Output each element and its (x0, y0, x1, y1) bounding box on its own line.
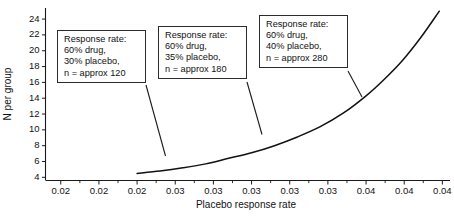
y-tick-label: 4 (34, 171, 39, 182)
callout-1-line-1: Response rate: (64, 34, 140, 45)
callout-1-line-2: 60% drug, (64, 45, 140, 56)
y-tick-label: 12 (29, 108, 40, 119)
y-axis-tick-labels: 4681012141618202224 (29, 13, 40, 182)
y-tick-label: 16 (29, 76, 40, 87)
y-tick-label: 10 (29, 123, 40, 134)
y-tick-label: 24 (29, 13, 40, 24)
callout-3-line-2: 60% drug, (266, 30, 342, 41)
callout-1-line-3: 30% placebo, (64, 56, 140, 67)
callout-3-line-4: n = approx 280 (266, 53, 342, 64)
x-axis-title: Placebo response rate (196, 199, 297, 210)
callout-1-line-4: n = approx 120 (64, 68, 140, 79)
x-tick-label: 0.04 (395, 185, 414, 196)
callout-2-line-3: 35% placebo, (165, 52, 241, 63)
y-tick-label: 8 (34, 139, 39, 150)
callout-2-line-4: n = approx 180 (165, 64, 241, 75)
callout-box-3: Response rate: 60% drug, 40% placebo, n … (259, 15, 348, 68)
x-axis: 0.020.020.020.030.030.030.030.030.040.04… (46, 181, 452, 197)
callout-2-line-1: Response rate: (165, 30, 241, 41)
x-tick-label: 0.03 (280, 185, 299, 196)
x-tick-label: 0.03 (319, 185, 338, 196)
callout-3-line-3: 40% placebo, (266, 41, 342, 52)
y-tick-label: 20 (29, 44, 40, 55)
y-tick-label: 6 (34, 155, 39, 166)
y-tick-label: 22 (29, 28, 40, 39)
x-tick-label: 0.02 (128, 185, 147, 196)
x-tick-label: 0.02 (52, 185, 71, 196)
callout-3-line-1: Response rate: (266, 19, 342, 30)
y-tick-label: 18 (29, 60, 40, 71)
callout-box-1: Response rate: 60% drug, 30% placebo, n … (57, 30, 146, 83)
callout-2-line-2: 60% drug, (165, 41, 241, 52)
x-tick-label: 0.02 (90, 185, 109, 196)
chart-figure: 4681012141618202224 0.020.020.020.030.03… (0, 0, 454, 218)
y-axis: 4681012141618202224 (29, 8, 46, 182)
y-tick-label: 14 (29, 92, 40, 103)
x-tick-label: 0.04 (433, 185, 452, 196)
callout-2-leader-line (247, 82, 262, 135)
y-axis-title: N per group (2, 67, 13, 120)
x-tick-label: 0.03 (242, 185, 261, 196)
callout-1-leader-line (146, 85, 166, 156)
callout-3-leader-line (348, 71, 362, 97)
callout-box-2: Response rate: 60% drug, 35% placebo, n … (158, 26, 247, 79)
x-axis-tick-labels: 0.020.020.020.030.030.030.030.030.040.04… (52, 185, 452, 196)
x-axis-ticks (61, 181, 443, 185)
x-tick-label: 0.04 (357, 185, 376, 196)
x-tick-label: 0.03 (166, 185, 185, 196)
x-tick-label: 0.03 (204, 185, 223, 196)
